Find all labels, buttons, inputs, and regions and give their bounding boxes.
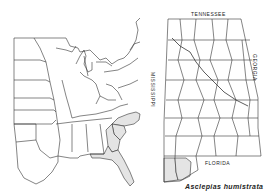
alabama-county-map <box>164 19 261 182</box>
label-mississippi: MISSISSIPPI <box>150 72 156 107</box>
label-florida: FLORIDA <box>205 160 230 166</box>
distribution-map-figure <box>0 0 273 196</box>
baldwin-county <box>175 158 191 180</box>
us-state-map <box>14 18 140 186</box>
shaded-states <box>90 112 140 186</box>
label-georgia: GEORGIA <box>252 54 258 81</box>
label-tennessee: TENNESSEE <box>191 11 226 17</box>
species-caption: Asclepias humistrata <box>185 183 263 190</box>
shaded-counties <box>164 158 191 182</box>
